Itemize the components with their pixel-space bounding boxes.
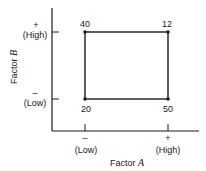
factorial-design-diagram: 40 12 20 50 + (High) – (Low) – (Low) + (… [0, 0, 206, 171]
corner-value-low-a-low-b: 20 [81, 104, 91, 114]
y-high-label: (High) [23, 30, 48, 40]
x-low-label: (Low) [75, 145, 98, 155]
x-axis-title: Factor A [110, 157, 145, 168]
x-high-sign: + [165, 133, 170, 143]
x-high-label: (High) [156, 145, 181, 155]
y-axis-title: Factor B [8, 50, 19, 84]
corner-point [83, 97, 87, 101]
y-high-sign: + [33, 20, 38, 30]
corner-value-high-a-low-b: 50 [163, 104, 173, 114]
corner-point [166, 30, 170, 34]
corner-value-low-a-high-b: 40 [80, 19, 90, 29]
corner-point [166, 97, 170, 101]
y-low-sign: – [32, 88, 37, 98]
corner-point [83, 30, 87, 34]
y-low-label: (Low) [24, 98, 47, 108]
design-square [85, 32, 168, 99]
x-low-sign: – [82, 133, 87, 143]
corner-value-high-a-high-b: 12 [162, 19, 172, 29]
